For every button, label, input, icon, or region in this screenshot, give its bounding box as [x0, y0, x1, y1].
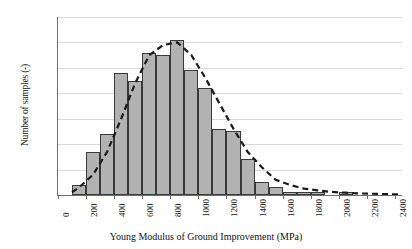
x-axis-tick-mark [255, 195, 256, 199]
histogram-chart: Number of samples (-) 010203040506070 02… [0, 0, 412, 249]
histogram-bar [100, 134, 114, 195]
histogram-bar [128, 81, 142, 195]
histogram-bar [170, 40, 184, 195]
histogram-bar [241, 159, 255, 195]
x-axis-tick-mark [198, 195, 199, 199]
x-axis-tick-label: 400 [118, 187, 127, 217]
plot-area: 010203040506070 020040060080010001200140… [57, 17, 402, 196]
x-axis-tick-mark [311, 195, 312, 199]
x-axis-tick-label: 800 [174, 187, 183, 217]
histogram-bar [297, 192, 311, 195]
histogram-bar [142, 53, 156, 195]
y-axis-title: Number of samples (-) [20, 20, 30, 190]
bar-series [58, 17, 402, 195]
x-axis-tick-mark [86, 195, 87, 199]
histogram-bar [269, 187, 283, 195]
x-axis-tick-mark [58, 195, 59, 199]
x-axis-tick-label: 2200 [371, 187, 380, 217]
x-axis-tick-label: 1800 [315, 187, 324, 217]
x-axis-tick-label: 600 [146, 187, 155, 217]
histogram-bar [212, 129, 226, 195]
x-axis-tick-label: 1000 [202, 187, 211, 217]
x-axis-tick-label: 1200 [230, 187, 239, 217]
histogram-bar [114, 73, 128, 195]
x-axis-tick-label: 0 [62, 187, 71, 217]
x-axis-tick-label: 2400 [399, 187, 408, 217]
histogram-bar [156, 55, 170, 195]
x-axis-tick-label: 2000 [343, 187, 352, 217]
x-axis-title: Young Modulus of Ground Improvement (MPa… [0, 231, 412, 242]
x-axis-tick-label: 200 [90, 187, 99, 217]
x-axis-tick-label: 1400 [259, 187, 268, 217]
histogram-bar [184, 70, 198, 195]
histogram-bar [226, 131, 240, 195]
histogram-bar [72, 185, 86, 195]
x-axis-tick-mark [114, 195, 115, 199]
x-axis-tick-mark [283, 195, 284, 199]
x-axis-tick-mark [226, 195, 227, 199]
x-axis-tick-mark [339, 195, 340, 199]
x-axis-tick-mark [170, 195, 171, 199]
x-axis-tick-label: 1600 [287, 187, 296, 217]
x-axis-tick-mark [142, 195, 143, 199]
histogram-bar [198, 88, 212, 195]
x-axis-tick-mark [367, 195, 368, 199]
x-axis-tick-mark [395, 195, 396, 199]
